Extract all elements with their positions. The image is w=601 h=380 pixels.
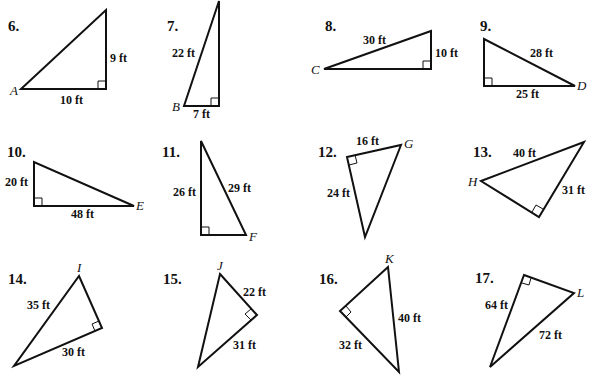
vertex-label: A [9,83,18,98]
triangle [14,276,102,366]
right-triangle-worksheet: 6. 9 ft 10 ft A 7. 22 ft 7 ft B 8. 30 ft… [0,0,601,380]
side-length-label: 16 ft [356,134,379,148]
side-length-label: 9 ft [110,51,127,65]
problem-10: 10. 20 ft 48 ft E [5,144,144,221]
vertex-label: L [576,285,584,300]
vertex-label: E [135,198,144,213]
side-length-label: 31 ft [233,338,256,352]
problem-number: 15. [163,271,182,287]
problem-15: 15. 22 ft 31 ft J [163,258,266,367]
problem-7: 7. 22 ft 7 ft B [167,1,219,121]
problem-12: 12. 16 ft 24 ft G [318,134,414,237]
vertex-label: C [311,62,320,77]
side-length-label: 20 ft [5,175,28,189]
side-length-label: 10 ft [435,46,458,60]
side-length-label: 30 ft [62,345,85,359]
triangle [21,10,106,89]
side-length-label: 28 ft [530,46,553,60]
problem-8: 8. 30 ft 10 ft C [311,18,458,77]
side-length-label: 26 ft [173,185,196,199]
problem-number: 8. [325,18,337,34]
problem-11: 11. 26 ft 29 ft F [162,141,258,244]
right-angle-marker [245,309,251,320]
problem-number: 9. [480,18,492,34]
side-length-label: 31 ft [562,183,585,197]
problem-17: 17. 64 ft 72 ft L [475,270,584,367]
triangle [490,275,574,367]
problem-number: 10. [7,144,26,160]
problem-16: 16. 40 ft 32 ft K [319,251,421,372]
triangle [34,162,134,206]
problem-number: 12. [318,144,337,160]
right-angle-marker [34,198,42,206]
problem-number: 7. [167,18,179,34]
right-angle-marker [346,306,351,317]
side-length-label: 40 ft [398,311,421,325]
right-angle-marker [423,61,431,69]
side-length-label: 25 ft [516,87,539,101]
problem-number: 13. [473,144,492,160]
right-angle-marker [532,205,543,212]
vertex-label: J [217,258,224,273]
vertex-label: H [467,174,478,189]
problem-number: 6. [8,18,20,34]
problem-13: 13. 40 ft 31 ft H [467,142,585,217]
side-length-label: 30 ft [363,33,386,47]
side-length-label: 10 ft [60,93,83,107]
triangle [340,267,399,372]
right-angle-marker [98,81,106,89]
side-length-label: 22 ft [243,285,266,299]
problem-number: 17. [475,270,494,286]
side-length-label: 32 ft [339,338,362,352]
vertex-label: F [248,229,258,244]
side-length-label: 64 ft [485,298,508,312]
problem-number: 16. [319,271,338,287]
right-angle-marker [484,78,492,86]
side-length-label: 22 ft [172,46,195,60]
side-length-label: 7 ft [193,107,210,121]
vertex-label: I [76,260,82,275]
side-length-label: 48 ft [71,207,94,221]
problem-14: 14. 35 ft 30 ft I [8,260,102,366]
side-length-label: 40 ft [513,146,536,160]
triangle [347,145,401,237]
vertex-label: G [404,136,414,151]
side-length-label: 72 ft [539,328,562,342]
right-angle-marker [211,98,219,106]
problem-number: 11. [162,144,180,160]
problem-number: 14. [8,271,27,287]
vertex-label: D [576,78,587,93]
vertex-label: B [172,99,180,114]
problem-9: 9. 28 ft 25 ft D [480,18,587,101]
problem-6: 6. 9 ft 10 ft A [8,10,127,107]
right-angle-marker [201,227,209,235]
side-length-label: 35 ft [27,298,50,312]
side-length-label: 29 ft [228,181,251,195]
side-length-label: 24 ft [327,186,350,200]
vertex-label: K [384,251,395,266]
